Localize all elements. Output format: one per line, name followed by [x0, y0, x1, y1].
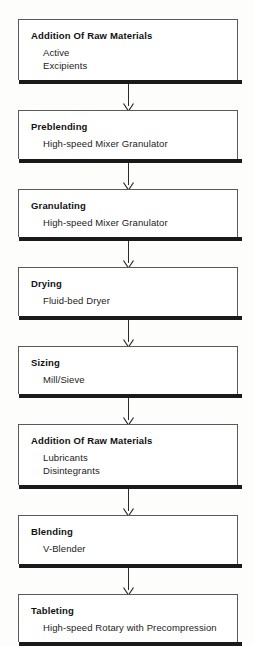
step-detail-list: Fluid-bed Dryer	[19, 290, 237, 308]
flow-connector-7	[18, 564, 238, 594]
process-step-box: BlendingV-Blender	[18, 515, 238, 564]
step-detail: V-Blender	[43, 543, 237, 556]
process-step-box: TabletingHigh-speed Rotary with Precompr…	[18, 594, 238, 643]
down-arrow-icon	[122, 334, 135, 343]
step-detail: High-speed Mixer Granulator	[43, 138, 237, 151]
step-title: Drying	[19, 277, 237, 290]
flow-connector-5	[18, 394, 238, 424]
down-arrow-icon	[122, 582, 135, 591]
down-arrow-icon	[122, 177, 135, 186]
step-title: Addition Of Raw Materials	[19, 434, 237, 447]
flow-connector-1	[18, 80, 238, 110]
down-arrow-icon	[122, 98, 135, 107]
flow-connector-2	[18, 159, 238, 189]
down-arrow-icon	[122, 255, 135, 264]
step-detail: Fluid-bed Dryer	[43, 295, 237, 308]
step-detail-list: High-speed Rotary with Precompression	[19, 617, 237, 635]
step-detail-list: ActiveExcipients	[19, 42, 237, 72]
step-detail: High-speed Mixer Granulator	[43, 217, 237, 230]
step-detail: High-speed Rotary with Precompression	[43, 622, 237, 635]
step-detail-list: High-speed Mixer Granulator	[19, 212, 237, 230]
step-title: Sizing	[19, 356, 237, 369]
process-step-box: PreblendingHigh-speed Mixer Granulator	[18, 110, 238, 159]
down-arrow-icon	[122, 412, 135, 421]
process-step-box: GranulatingHigh-speed Mixer Granulator	[18, 189, 238, 238]
process-step-box: DryingFluid-bed Dryer	[18, 267, 238, 316]
flow-connector-6	[18, 485, 238, 515]
down-arrow-icon	[122, 503, 135, 512]
process-step-box: SizingMill/Sieve	[18, 346, 238, 395]
process-step-box: Addition Of Raw MaterialsActiveExcipient…	[18, 19, 238, 80]
step-detail: Disintegrants	[43, 465, 237, 478]
step-detail: Excipients	[43, 60, 237, 73]
step-title: Addition Of Raw Materials	[19, 29, 237, 42]
process-step-box: Addition Of Raw MaterialsLubricantsDisin…	[18, 424, 238, 485]
step-detail: Active	[43, 47, 237, 60]
step-title: Tableting	[19, 604, 237, 617]
step-title: Preblending	[19, 120, 237, 133]
flow-connector-3	[18, 237, 238, 267]
step-detail-list: High-speed Mixer Granulator	[19, 133, 237, 151]
step-title: Blending	[19, 525, 237, 538]
step-detail: Lubricants	[43, 452, 237, 465]
step-detail-list: Mill/Sieve	[19, 369, 237, 387]
step-title: Granulating	[19, 199, 237, 212]
step-detail-list: LubricantsDisintegrants	[19, 447, 237, 477]
step-detail-list: V-Blender	[19, 538, 237, 556]
flow-connector-4	[18, 316, 238, 346]
step-detail: Mill/Sieve	[43, 374, 237, 387]
